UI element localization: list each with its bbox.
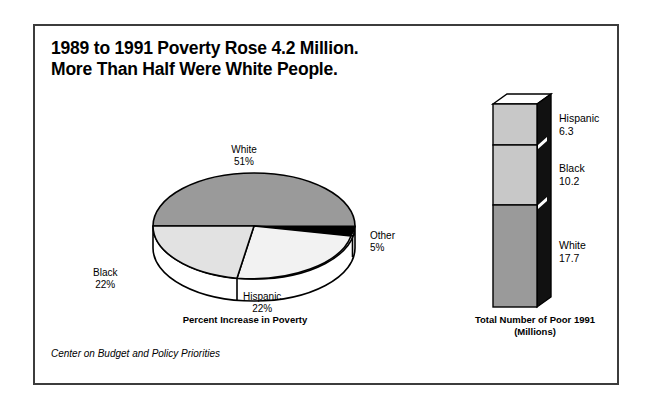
bar-label-hispanic: Hispanic 6.3 bbox=[559, 112, 599, 137]
pie-label-black-pct: 22% bbox=[93, 279, 117, 291]
pie-label-other-name: Other bbox=[370, 230, 395, 242]
pie-label-white-pct: 51% bbox=[231, 156, 257, 168]
bar-segment-hispanic bbox=[493, 104, 537, 145]
bar-label-black-value: 10.2 bbox=[559, 175, 585, 188]
pie-caption: Percent Increase in Poverty bbox=[130, 314, 360, 326]
source-attribution: Center on Budget and Policy Priorities bbox=[51, 348, 220, 359]
pie-label-black: Black 22% bbox=[93, 267, 117, 291]
pie-chart: White 51% Other 5% Black 22% Hispanic 22… bbox=[95, 126, 395, 316]
chart-figure-frame: 1989 to 1991 Poverty Rose 4.2 Million. M… bbox=[33, 24, 619, 385]
bar-label-white-name: White bbox=[559, 239, 586, 252]
pie-label-hispanic-name: Hispanic bbox=[243, 291, 281, 303]
bar-label-white-value: 17.7 bbox=[559, 252, 586, 265]
bar-segment-black bbox=[493, 145, 537, 205]
pie-label-white-name: White bbox=[231, 144, 257, 156]
bar-caption-line-1: Total Number of Poor 1991 bbox=[415, 314, 647, 326]
pie-label-other-pct: 5% bbox=[370, 242, 395, 254]
bar-label-hispanic-name: Hispanic bbox=[559, 112, 599, 125]
pie-slice-white bbox=[153, 173, 355, 232]
bar-label-black-name: Black bbox=[559, 162, 585, 175]
bar-label-hispanic-value: 6.3 bbox=[559, 125, 599, 138]
pie-label-hispanic: Hispanic 22% bbox=[243, 291, 281, 315]
chart-title-line-2: More Than Half Were White People. bbox=[51, 59, 571, 80]
bar-label-white: White 17.7 bbox=[559, 239, 586, 264]
stacked-bar-chart: Hispanic 6.3 Black 10.2 White 17.7 bbox=[455, 90, 615, 330]
chart-title: 1989 to 1991 Poverty Rose 4.2 Million. M… bbox=[51, 38, 571, 80]
pie-label-white: White 51% bbox=[231, 144, 257, 168]
pie-label-other: Other 5% bbox=[370, 230, 395, 254]
bar-label-black: Black 10.2 bbox=[559, 162, 585, 187]
bar-segment-white bbox=[493, 205, 537, 307]
bar-caption-line-2: (Millions) bbox=[415, 326, 647, 338]
pie-label-black-name: Black bbox=[93, 267, 117, 279]
pie-top-face bbox=[153, 173, 355, 279]
chart-title-line-1: 1989 to 1991 Poverty Rose 4.2 Million. bbox=[51, 38, 571, 59]
